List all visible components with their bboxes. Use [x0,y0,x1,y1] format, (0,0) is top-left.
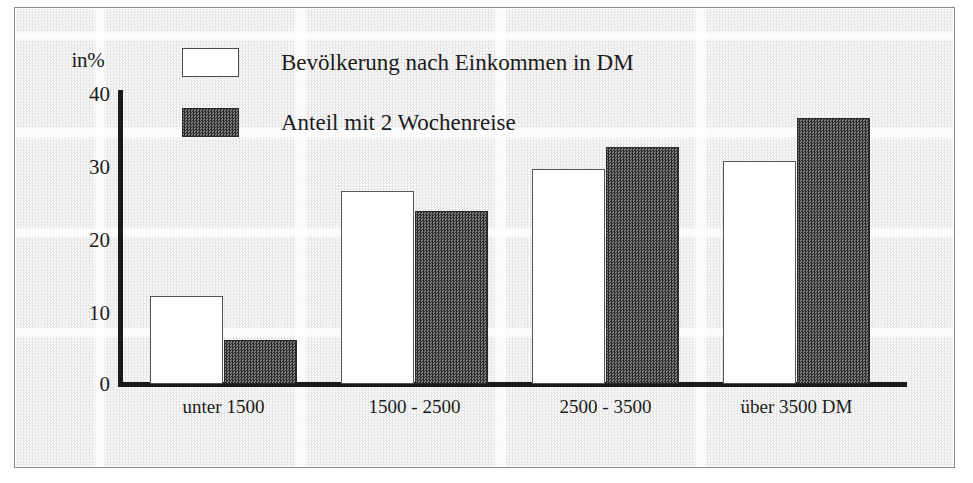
category-label-2: 2500 - 3500 [506,396,706,418]
y-axis-unit-label: in% [62,48,114,73]
bar-population-0 [150,296,223,384]
legend-swatch-light-icon [182,48,239,77]
y-axis-line [118,90,123,386]
bar-share-2 [606,147,679,384]
legend-entry-anteil: Anteil mit 2 Wochenreise [182,108,516,137]
bar-population-3 [723,161,796,384]
bar-share-3 [797,118,870,384]
chart-screenshot: in% 40 30 20 10 0 unter 15001500 - 25002… [0,0,973,483]
legend-entry-bevoelkerung: Bevölkerung nach Einkommen in DM [182,48,634,77]
bar-population-2 [532,169,605,384]
plot-area: in% 40 30 20 10 0 unter 15001500 - 25002… [0,0,973,483]
y-tick-label-40: 40 [58,82,110,107]
legend-label-bevoelkerung: Bevölkerung nach Einkommen in DM [281,50,634,76]
y-tick-label-0: 0 [58,372,110,397]
category-label-3: über 3500 DM [697,396,897,418]
legend-label-anteil: Anteil mit 2 Wochenreise [281,110,516,136]
bar-population-1 [341,191,414,384]
legend-swatch-dark-icon [182,108,239,137]
bar-share-0 [224,340,297,384]
y-tick-label-30: 30 [58,155,110,180]
y-tick-label-10: 10 [58,301,110,326]
category-label-0: unter 1500 [124,396,324,418]
category-label-1: 1500 - 2500 [315,396,515,418]
y-tick-label-20: 20 [58,228,110,253]
bar-share-1 [415,211,488,384]
